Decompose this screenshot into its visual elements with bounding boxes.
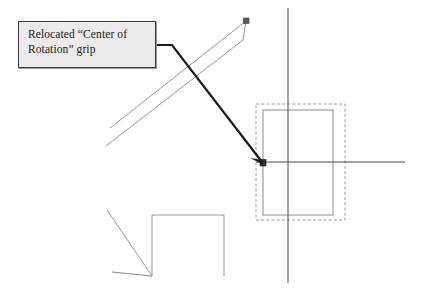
- corner-shape-diagonal-line: [107, 210, 152, 276]
- diagram-canvas: Relocated “Center of Rotation” grip: [0, 0, 422, 296]
- annotation-callout-box[interactable]: Relocated “Center of Rotation” grip: [18, 21, 156, 68]
- annotation-callout-text: Relocated “Center of Rotation” grip: [28, 27, 152, 57]
- rotation-crosshair: [256, 8, 405, 283]
- rotated-rect-edge-cap: [243, 21, 246, 40]
- corner-shape-horizontal-line: [112, 272, 152, 276]
- leader-arrow: [156, 45, 264, 165]
- corner-shape[interactable]: [107, 210, 224, 276]
- leader-arrow-line: [156, 45, 262, 162]
- rotation-grip-icon[interactable]: [244, 18, 250, 24]
